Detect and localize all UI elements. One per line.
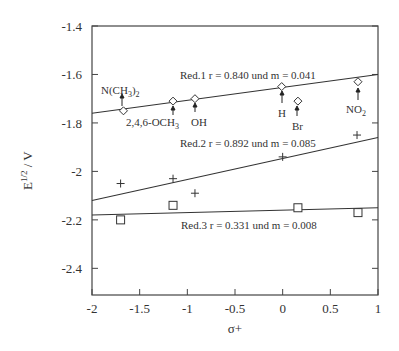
svg-text:-1.4: -1.4	[61, 19, 82, 34]
red2-annotation: Red.2 r = 0.892 und m = 0.085	[180, 137, 316, 149]
svg-text:-1.6: -1.6	[61, 67, 82, 82]
label-no2: NO2	[346, 103, 366, 118]
svg-text:1: 1	[375, 301, 382, 316]
x-axis-title: σ+	[228, 321, 242, 336]
plot-area	[92, 26, 378, 295]
y-axis-title: E1/2 / V	[19, 151, 35, 190]
svg-text:0.5: 0.5	[322, 301, 338, 316]
svg-text:-2: -2	[87, 301, 98, 316]
chart: -2-1.5-1-0.500.51-1.4-1.6-1.8-2-2.2-2.4 …	[0, 0, 399, 351]
svg-text:-1: -1	[182, 301, 193, 316]
red1-annotation: Red.1 r = 0.840 und m = 0.041	[180, 69, 316, 81]
arrow-icons	[120, 88, 360, 116]
svg-text:-2.2: -2.2	[61, 213, 82, 228]
label-oh: OH	[191, 116, 207, 128]
label-h: H	[278, 107, 286, 119]
svg-text:-1.8: -1.8	[61, 116, 82, 131]
svg-text:0: 0	[279, 301, 286, 316]
label-ome3: 2,4,6-OCH3	[126, 116, 179, 131]
svg-text:-2: -2	[71, 164, 82, 179]
data-points	[117, 78, 362, 224]
axis-ticks: -2-1.5-1-0.500.51-1.4-1.6-1.8-2-2.2-2.4	[61, 19, 381, 316]
label-br: Br	[292, 120, 303, 132]
svg-text:-0.5: -0.5	[225, 301, 246, 316]
svg-text:-2.4: -2.4	[61, 261, 82, 276]
svg-text:-1.5: -1.5	[129, 301, 150, 316]
red3-annotation: Red.3 r = 0.331 und m = 0.008	[181, 219, 317, 231]
